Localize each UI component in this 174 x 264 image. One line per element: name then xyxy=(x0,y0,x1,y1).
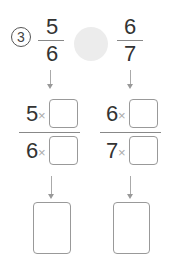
right-numerator-multiplier-input[interactable] xyxy=(129,99,158,128)
arrowhead-icon xyxy=(127,84,133,89)
left-denominator: 6 xyxy=(40,43,64,65)
problem-number: 3 xyxy=(11,27,31,47)
left-expanded-fraction-line xyxy=(19,132,80,133)
right-denominator-multiplier-input[interactable] xyxy=(129,136,158,165)
left-numerator-multiplier-input[interactable] xyxy=(49,99,78,128)
multiply-icon: × xyxy=(118,145,126,160)
right-expanded-fraction-line xyxy=(100,132,161,133)
multiply-icon: × xyxy=(38,145,46,160)
right-denominator: 7 xyxy=(118,43,142,65)
multiply-icon: × xyxy=(118,108,126,123)
arrowhead-icon xyxy=(47,84,53,89)
right-result-input[interactable] xyxy=(113,202,150,254)
down-arrow-right-2 xyxy=(130,176,131,196)
down-arrow-right-1 xyxy=(130,70,131,85)
left-denominator-multiplier-input[interactable] xyxy=(49,136,78,165)
left-numerator: 5 xyxy=(40,16,64,38)
left-result-input[interactable] xyxy=(33,202,71,254)
comparison-answer-circle[interactable] xyxy=(74,27,108,61)
down-arrow-left-2 xyxy=(51,176,52,196)
arrowhead-icon xyxy=(48,194,54,199)
down-arrow-left-1 xyxy=(50,70,51,85)
multiply-icon: × xyxy=(38,108,46,123)
right-numerator: 6 xyxy=(118,16,142,38)
arrowhead-icon xyxy=(127,194,133,199)
